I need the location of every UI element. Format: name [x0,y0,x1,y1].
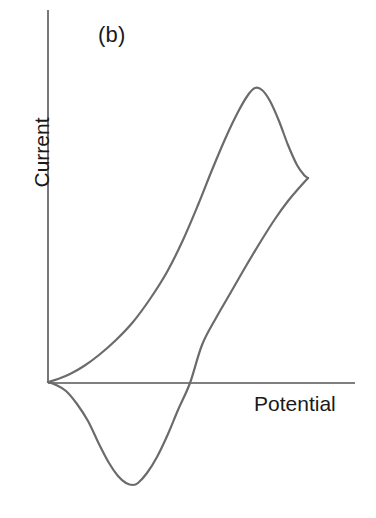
voltammogram-traces [48,88,308,485]
panel-label: (b) [98,24,126,46]
x-axis-label: Potential [254,393,336,414]
forward-anodic-scan-path [48,88,308,382]
plot-canvas [0,0,376,518]
reverse-cathodic-scan-path [48,178,308,485]
cyclic-voltammogram-figure: (b) Current Potential [0,0,376,518]
y-axis-label: Current [31,98,52,208]
